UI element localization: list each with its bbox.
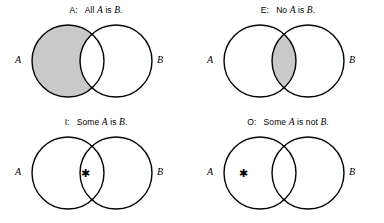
panel-o-circle-b: [272, 137, 344, 209]
panel-i-circle-b: [80, 137, 152, 209]
panel-o-venn-svg: [192, 112, 384, 223]
panel-i-set-label-a: A: [15, 167, 21, 177]
panel-o-circle-a: [224, 137, 296, 209]
venn-panel-a: A: All A is B. A B: [0, 0, 192, 111]
panel-e-set-label-a: A: [207, 55, 213, 65]
panel-i-venn-svg: [0, 112, 192, 223]
panel-a-set-label-b: B: [157, 55, 163, 65]
panel-a-set-label-a: A: [15, 55, 21, 65]
panel-i-circle-a: [32, 137, 104, 209]
panel-o-existential-star: ✱: [239, 168, 248, 179]
venn-panel-o: O: Some A is not B. ✱ A B: [192, 112, 384, 223]
venn-panel-i: I: Some A is B. ✱ A B: [0, 112, 192, 223]
venn-panel-e: E: No A is B. A B: [192, 0, 384, 111]
venn-diagram-figure: A: All A is B. A B E: No A is B.: [0, 0, 384, 223]
panel-e-venn-svg: [192, 0, 384, 111]
panel-o-set-label-b: B: [349, 167, 355, 177]
panel-e-set-label-b: B: [349, 55, 355, 65]
panel-a-shaded-region: [32, 25, 152, 97]
panel-i-existential-star: ✱: [81, 168, 90, 179]
panel-o-set-label-a: A: [207, 167, 213, 177]
panel-a-venn-svg: [0, 0, 192, 111]
panel-i-set-label-b: B: [157, 167, 163, 177]
